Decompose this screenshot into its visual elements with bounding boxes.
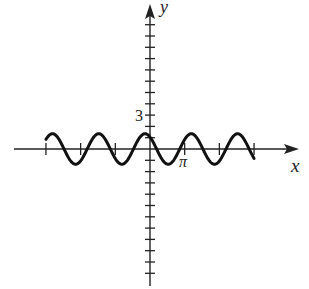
y-tick-label-3: 3: [135, 107, 143, 124]
y-axis-label: y: [158, 0, 168, 17]
x-tick-label-pi: π: [179, 153, 188, 170]
sinusoid-graph: y x 3 π: [0, 0, 309, 289]
x-axis-label: x: [290, 155, 300, 176]
